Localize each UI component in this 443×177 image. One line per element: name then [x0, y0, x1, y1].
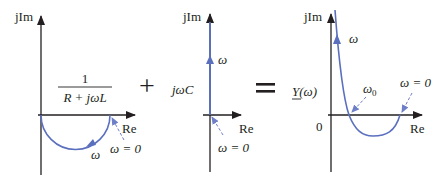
panel-total-admittance: jIm Re 0 ω Y(ω) ω 0 ω = 0: [292, 9, 431, 172]
imag-axis-label: jIm: [303, 9, 322, 24]
panel-capacitor-admittance: jIm Re ω jωC ω = 0: [170, 9, 254, 172]
omega-zero-label: ω = 0: [400, 75, 431, 90]
omega-zero-label: ω = 0: [218, 140, 249, 155]
omega-label: ω: [91, 147, 100, 162]
origin-label: 0: [316, 119, 323, 134]
rl-locus-curve: [41, 115, 110, 149]
omega0-pointer: [352, 97, 366, 112]
expression-label: Y(ω): [292, 84, 317, 99]
equals-operator: [256, 83, 275, 93]
real-axis-label: Re: [122, 121, 137, 136]
omega-label: ω: [218, 52, 227, 67]
panel-rl-admittance: jIm Re 1 R + jωL ω ω = 0: [14, 9, 141, 175]
omega0-subscript: 0: [372, 88, 377, 98]
omega-direction-arrow-icon: [333, 34, 341, 44]
total-locus-curve: [335, 10, 400, 136]
omega-direction-arrow-icon: [206, 55, 214, 64]
imag-axis-label: jIm: [14, 9, 33, 24]
plus-operator: +: [139, 70, 155, 101]
omega-zero-label: ω = 0: [110, 141, 141, 156]
omega-zero-pointer: [212, 117, 223, 135]
fraction-numerator: 1: [82, 71, 89, 86]
omega-direction-arrow-icon: [86, 139, 96, 147]
omega-zero-pointer: [402, 93, 412, 112]
omega0-label: ω: [363, 81, 372, 96]
fraction-denominator: R + jωL: [62, 90, 106, 105]
omega-label: ω: [349, 31, 358, 46]
real-axis-label: Re: [239, 121, 254, 136]
imag-axis-label: jIm: [182, 9, 201, 24]
expression-label: jωC: [170, 82, 194, 97]
admittance-locus-diagram: jIm Re 1 R + jωL ω ω = 0 + jIm Re ω jωC …: [0, 0, 443, 177]
real-axis-label: Re: [410, 121, 425, 136]
